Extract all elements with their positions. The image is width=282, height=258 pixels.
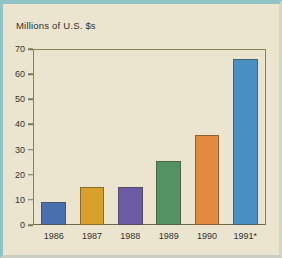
bar-slot — [73, 49, 111, 225]
bar-1991 — [233, 59, 257, 225]
y-tick-label: 60 — [15, 69, 25, 79]
x-tick-label: 1988 — [111, 228, 149, 246]
chart-card: Millions of U.S. $s 70 60 50 40 30 — [0, 0, 282, 258]
y-tick-label: 50 — [15, 94, 25, 104]
x-axis: 1986 1987 1988 1989 1990 1991* — [35, 228, 265, 246]
bar-slot — [111, 49, 149, 225]
y-tick-label: 70 — [15, 44, 25, 54]
y-tick-label: 30 — [15, 145, 25, 155]
y-tick-label: 0 — [20, 220, 25, 230]
bar-1987 — [80, 187, 104, 225]
bar-series — [35, 49, 265, 225]
chart-title: Millions of U.S. $s — [16, 20, 96, 31]
bar-1986 — [41, 202, 65, 225]
bar-slot — [188, 49, 226, 225]
bar-1988 — [118, 187, 142, 225]
x-tick-label: 1990 — [188, 228, 226, 246]
bar-slot — [150, 49, 188, 225]
bar-slot — [226, 49, 264, 225]
y-tick-label: 40 — [15, 119, 25, 129]
y-axis: 70 60 50 40 30 20 — [3, 49, 33, 225]
y-tick-label: 10 — [15, 195, 25, 205]
chart-canvas: Millions of U.S. $s 70 60 50 40 30 — [3, 4, 279, 255]
x-tick-label: 1989 — [150, 228, 188, 246]
bar-1989 — [156, 161, 180, 225]
x-tick-label: 1991* — [226, 228, 264, 246]
x-tick-label: 1987 — [73, 228, 111, 246]
x-tick-label: 1986 — [35, 228, 73, 246]
bar-1990 — [195, 135, 219, 226]
y-tick-label: 20 — [15, 170, 25, 180]
bar-slot — [35, 49, 73, 225]
